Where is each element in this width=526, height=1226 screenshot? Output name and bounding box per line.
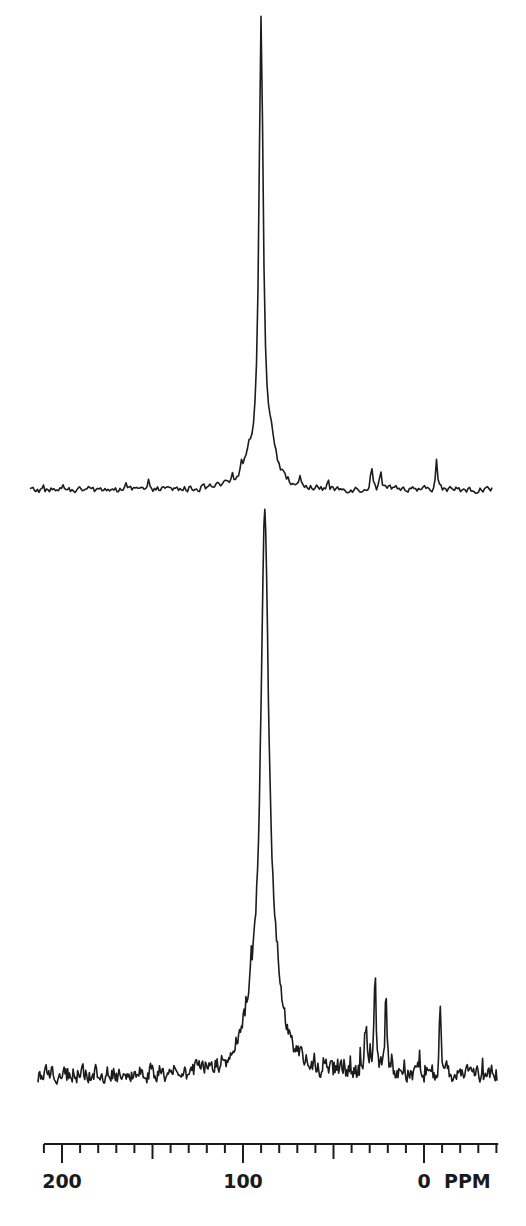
upper-spectrum-trace bbox=[30, 16, 492, 493]
upper-spectrum bbox=[30, 16, 492, 493]
axis-ticks bbox=[44, 1144, 497, 1163]
tick-label-0: 0 bbox=[417, 1170, 430, 1192]
nmr-spectra-figure: 2001000 PPM bbox=[0, 0, 526, 1226]
axis-tick-labels: 2001000 bbox=[42, 1170, 430, 1192]
ppm-axis: 2001000 PPM bbox=[42, 1144, 498, 1192]
lower-spectrum-trace bbox=[38, 509, 497, 1084]
tick-label-200: 200 bbox=[42, 1170, 82, 1192]
axis-unit-label: PPM bbox=[444, 1170, 491, 1192]
tick-label-100: 100 bbox=[223, 1170, 263, 1192]
lower-spectrum bbox=[38, 509, 497, 1084]
